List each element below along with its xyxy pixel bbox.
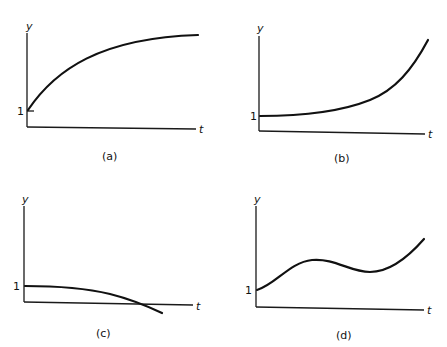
t-label: t <box>199 123 204 136</box>
tick-label-1: 1 <box>17 105 24 118</box>
y-label: y <box>21 193 29 206</box>
caption-c: (c) <box>96 327 111 340</box>
x-axis <box>259 131 425 134</box>
tick-label-1: 1 <box>250 110 257 123</box>
curve-b <box>260 40 428 116</box>
t-label: t <box>428 128 433 141</box>
caption-b: (b) <box>334 152 350 165</box>
curve-a <box>28 35 198 110</box>
x-axis <box>27 127 196 129</box>
panel-a: y t 1 (a) <box>17 20 204 163</box>
caption-a: (a) <box>102 150 117 163</box>
t-label: t <box>196 300 201 313</box>
panel-b: y t 1 (b) <box>250 22 433 165</box>
y-label: y <box>253 193 261 206</box>
panel-c: y t 1 (c) <box>13 193 201 340</box>
x-axis <box>256 307 424 310</box>
tick-label-1: 1 <box>245 284 252 297</box>
x-axis <box>24 302 193 305</box>
y-label: y <box>25 20 33 33</box>
y-label: y <box>256 22 264 35</box>
curve-c <box>25 286 162 313</box>
t-label: t <box>427 304 432 317</box>
curve-d <box>257 239 424 290</box>
diagram-canvas: y t 1 (a) y t 1 (b) y t 1 (c) y t 1 (d) <box>0 0 447 347</box>
tick-label-1: 1 <box>13 280 20 293</box>
panel-d: y t 1 (d) <box>245 193 432 342</box>
caption-d: (d) <box>336 329 352 342</box>
